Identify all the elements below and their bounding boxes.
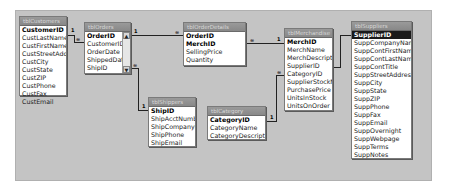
field[interactable]: CustPhone [20, 82, 66, 90]
field[interactable]: UnitsOnOrder [285, 102, 332, 110]
field-primary-key[interactable]: MerchID [285, 38, 332, 46]
field[interactable]: ShipAcctNumber [149, 115, 195, 123]
one-label: 1 [270, 115, 273, 120]
table-title[interactable]: tblOrderDetails [184, 23, 245, 32]
one-label: 1 [71, 28, 74, 33]
field[interactable]: SuppNotes [352, 151, 411, 159]
field[interactable]: SuppEmail [352, 119, 411, 127]
relationship-line-merchandise-suppliers [340, 35, 341, 68]
many-label: ∞ [175, 30, 179, 35]
vertical-scrollbar[interactable]: ▲ ▼ [122, 32, 130, 73]
field[interactable]: Quantity [184, 56, 245, 64]
field[interactable]: PurchasePrice [285, 86, 332, 94]
field-primary-key-selected[interactable]: SupplierID [352, 31, 411, 39]
field[interactable]: SellingPrice [184, 48, 245, 56]
field[interactable]: SuppStreetAddress [352, 71, 411, 79]
relationship-line-orderdetails-merchandise [246, 43, 284, 44]
many-label: ∞ [133, 63, 137, 68]
relationship-line-merchandise-category [276, 75, 277, 121]
field[interactable]: SuppWebpage [352, 135, 411, 143]
relationship-line-merchandise-category [276, 75, 284, 76]
table-merchandise[interactable]: tblMerchandise MerchID MerchName MerchDe… [284, 28, 333, 111]
relationship-line-orders-shippers [138, 68, 139, 110]
field[interactable]: CustLastName [20, 34, 66, 42]
table-title[interactable]: tblCategory [208, 107, 265, 116]
table-title[interactable]: tblCustomers [20, 17, 66, 26]
one-label: 1 [134, 29, 137, 34]
field[interactable]: CustZIP [20, 74, 66, 82]
field[interactable]: SuppCompanyName [352, 39, 411, 47]
table-title[interactable]: tblMerchandise [285, 29, 332, 38]
field[interactable]: MerchName [285, 46, 332, 54]
field[interactable]: ShipEmail [149, 139, 195, 147]
field-primary-key[interactable]: OrderID [184, 32, 245, 40]
field-primary-key[interactable]: CategoryID [208, 116, 265, 124]
field[interactable]: CustState [20, 66, 66, 74]
field[interactable]: CustStreetAddrss [20, 50, 66, 58]
field[interactable]: SuppContTitle [352, 63, 411, 71]
field[interactable]: SupplierStockNum [285, 78, 332, 86]
field[interactable]: SuppZIP [352, 95, 411, 103]
many-label: ∞ [277, 70, 281, 75]
field-primary-key[interactable]: CustomerID [20, 26, 66, 34]
field-primary-key[interactable]: MerchID [184, 40, 245, 48]
table-shippers[interactable]: tblShippers ShipID ShipAcctNumber ShipCo… [148, 97, 196, 147]
field[interactable]: SuppTerms [352, 143, 411, 151]
many-label: ∞ [250, 38, 254, 43]
field[interactable]: CustEmail [20, 98, 66, 106]
field[interactable]: SupplierID [285, 62, 332, 70]
field[interactable]: UnitsInStock [285, 94, 332, 102]
field[interactable]: CustFax [20, 90, 66, 98]
table-order-details[interactable]: tblOrderDetails OrderID MerchID SellingP… [183, 22, 246, 66]
table-title[interactable]: tblSuppliers [352, 22, 411, 31]
table-orders[interactable]: tblOrders OrderID CustomerID OrderDate S… [84, 22, 131, 74]
field[interactable]: SuppContLastName [352, 55, 411, 63]
table-customers[interactable]: tblCustomers CustomerID CustLastName Cus… [19, 16, 67, 96]
one-label: 1 [277, 37, 280, 42]
relationship-line-orders-orderdetails [131, 35, 183, 36]
field[interactable]: CategoryID [285, 70, 332, 78]
field[interactable]: CustCity [20, 58, 66, 66]
one-label: 1 [142, 104, 145, 109]
field[interactable]: MerchDescription [285, 54, 332, 62]
field[interactable]: SuppPhone [352, 103, 411, 111]
field[interactable]: SuppFax [352, 111, 411, 119]
field[interactable]: CategoryDescription [208, 132, 265, 140]
field[interactable]: ShipPhone [149, 131, 195, 139]
field[interactable]: CategoryName [208, 124, 265, 132]
many-label: ∞ [76, 37, 80, 42]
field[interactable]: SuppState [352, 87, 411, 95]
table-category[interactable]: tblCategory CategoryID CategoryName Cate… [207, 106, 266, 140]
relationship-line-merchandise-category [266, 121, 277, 122]
field[interactable]: CustFirstName [20, 42, 66, 50]
field-primary-key[interactable]: ShipID [149, 107, 195, 115]
scroll-down-button[interactable]: ▼ [123, 66, 130, 73]
field[interactable]: ShipCompanyName [149, 123, 195, 131]
scroll-up-button[interactable]: ▲ [123, 32, 130, 39]
table-suppliers[interactable]: tblSuppliers SupplierID SuppCompanyName … [351, 21, 412, 159]
field[interactable]: SuppContFirstName [352, 47, 411, 55]
relationship-line-orders-shippers [138, 110, 148, 111]
table-title[interactable]: tblShippers [149, 98, 195, 107]
field[interactable]: SuppOvernight [352, 127, 411, 135]
table-title[interactable]: tblOrders [85, 23, 130, 32]
field[interactable]: SuppCity [352, 79, 411, 87]
